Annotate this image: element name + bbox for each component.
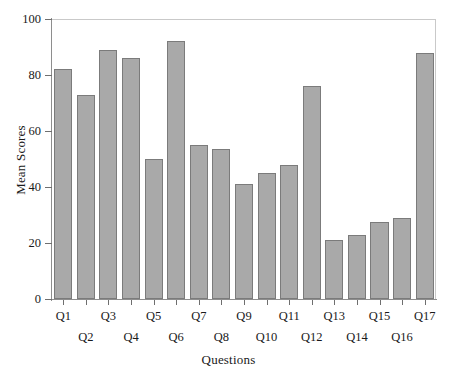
x-tick-label: Q10: [247, 331, 287, 344]
y-tick-label: 60: [7, 125, 41, 138]
x-tick: [334, 300, 335, 305]
y-tick: [45, 19, 52, 20]
x-tick: [425, 300, 426, 305]
bar: [416, 53, 434, 299]
y-tick: [45, 131, 52, 132]
x-tick-label: Q2: [66, 331, 106, 344]
x-tick: [154, 300, 155, 305]
x-tick: [357, 300, 358, 305]
x-tick: [402, 300, 403, 305]
x-tick-label: Q6: [156, 331, 196, 344]
bar: [348, 235, 366, 299]
bar: [122, 58, 140, 299]
x-tick-label: Q17: [405, 310, 445, 323]
x-tick-label: Q12: [292, 331, 332, 344]
y-tick: [45, 75, 52, 76]
x-tick: [131, 300, 132, 305]
x-tick: [380, 300, 381, 305]
y-tick-label: 80: [7, 69, 41, 82]
x-tick-label: Q16: [382, 331, 422, 344]
x-tick-label: Q1: [43, 310, 83, 323]
x-tick: [267, 300, 268, 305]
y-tick: [45, 187, 52, 188]
bar: [325, 240, 343, 299]
x-tick: [199, 300, 200, 305]
x-tick-label: Q15: [360, 310, 400, 323]
bar: [212, 149, 230, 299]
bars-container: [52, 19, 436, 299]
x-tick: [244, 300, 245, 305]
bar: [235, 184, 253, 299]
x-tick: [63, 300, 64, 305]
x-tick-label: Q13: [314, 310, 354, 323]
bar: [258, 173, 276, 299]
x-tick: [176, 300, 177, 305]
bar: [393, 218, 411, 299]
x-tick-label: Q5: [134, 310, 174, 323]
bar: [99, 50, 117, 299]
bar: [54, 69, 72, 299]
y-tick: [45, 243, 52, 244]
x-axis-title: Questions: [0, 352, 457, 368]
x-tick: [289, 300, 290, 305]
bar: [145, 159, 163, 299]
y-tick-label: 0: [7, 293, 41, 306]
y-tick: [45, 299, 52, 300]
x-tick-label: Q14: [337, 331, 377, 344]
x-tick: [86, 300, 87, 305]
x-tick-label: Q9: [224, 310, 264, 323]
bar: [167, 41, 185, 299]
bar: [280, 165, 298, 299]
x-tick: [108, 300, 109, 305]
bar: [77, 95, 95, 299]
bar-chart: Mean Scores 020406080100 Q1Q2Q3Q4Q5Q6Q7Q…: [0, 0, 457, 380]
x-tick-label: Q4: [111, 331, 151, 344]
x-tick-label: Q7: [179, 310, 219, 323]
bar: [190, 145, 208, 299]
y-tick-label: 40: [7, 181, 41, 194]
y-tick-label: 100: [7, 13, 41, 26]
y-tick-label: 20: [7, 237, 41, 250]
x-tick-label: Q3: [88, 310, 128, 323]
y-axis-title: Mean Scores: [10, 20, 32, 300]
x-tick: [312, 300, 313, 305]
x-tick: [221, 300, 222, 305]
x-tick-label: Q8: [201, 331, 241, 344]
bar: [370, 222, 388, 299]
x-tick-label: Q11: [269, 310, 309, 323]
bar: [303, 86, 321, 299]
